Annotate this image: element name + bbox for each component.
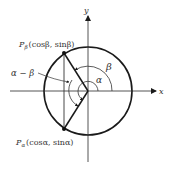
point-p-beta bbox=[62, 51, 66, 55]
label-alpha: α bbox=[96, 75, 102, 85]
radius-to-p-beta bbox=[64, 53, 88, 91]
angle-difference-arc bbox=[69, 80, 78, 106]
label-alpha-minus-beta: α − β bbox=[11, 68, 34, 78]
x-axis-label: x bbox=[159, 87, 164, 96]
unit-circle-diagram: x y β α α − β Pβ(cosβ, sinβ) Pα(cosα, si… bbox=[0, 0, 173, 174]
radius-to-p-alpha bbox=[64, 91, 88, 129]
point-p-alpha bbox=[62, 127, 66, 131]
label-p-alpha: Pα(cosα, sinα) bbox=[15, 138, 73, 148]
y-axis-label: y bbox=[83, 6, 89, 15]
label-beta: β bbox=[105, 61, 112, 72]
label-p-beta: Pβ(cosβ, sinβ) bbox=[18, 40, 74, 51]
